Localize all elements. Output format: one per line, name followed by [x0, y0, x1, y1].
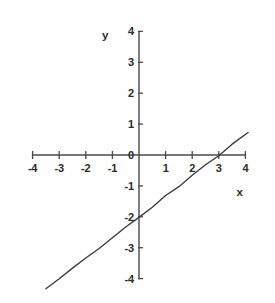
y-tick-label: 1	[128, 119, 134, 130]
x-tick-label: 1	[163, 163, 169, 174]
x-axis-label: x	[236, 187, 242, 199]
y-tick-label: -1	[125, 180, 134, 191]
plot-canvas	[0, 0, 275, 303]
y-tick-label: 4	[128, 26, 134, 37]
data-series-group	[46, 132, 248, 288]
x-tick-label: -3	[54, 163, 63, 174]
y-axis-label: y	[102, 30, 108, 42]
coordinate-plot: -4-3-2-11234 43210-1-2-3-4 y x	[0, 0, 275, 303]
x-tick-label: -2	[81, 163, 90, 174]
x-tick-label: 2	[189, 163, 195, 174]
y-tick-label: -3	[125, 242, 134, 253]
x-tick-label: 3	[216, 163, 222, 174]
x-tick-label: -4	[28, 163, 37, 174]
y-tick-label: -2	[125, 211, 134, 222]
axes-group	[33, 31, 246, 278]
x-tick-label: -1	[108, 163, 117, 174]
y-tick-label: -4	[125, 273, 134, 284]
y-tick-label: 0	[128, 150, 134, 161]
line-series	[46, 132, 248, 288]
x-tick-label: 4	[242, 163, 248, 174]
y-tick-label: 2	[128, 88, 134, 99]
y-tick-label: 3	[128, 57, 134, 68]
